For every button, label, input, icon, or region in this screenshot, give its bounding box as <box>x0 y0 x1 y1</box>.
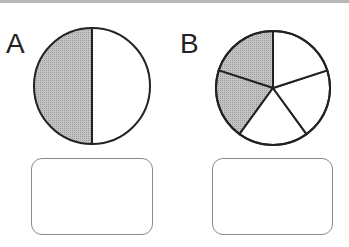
answer-box-b[interactable] <box>212 158 333 235</box>
circle-b <box>216 31 330 145</box>
circle-a <box>34 28 150 144</box>
answer-box-a[interactable] <box>31 158 153 235</box>
